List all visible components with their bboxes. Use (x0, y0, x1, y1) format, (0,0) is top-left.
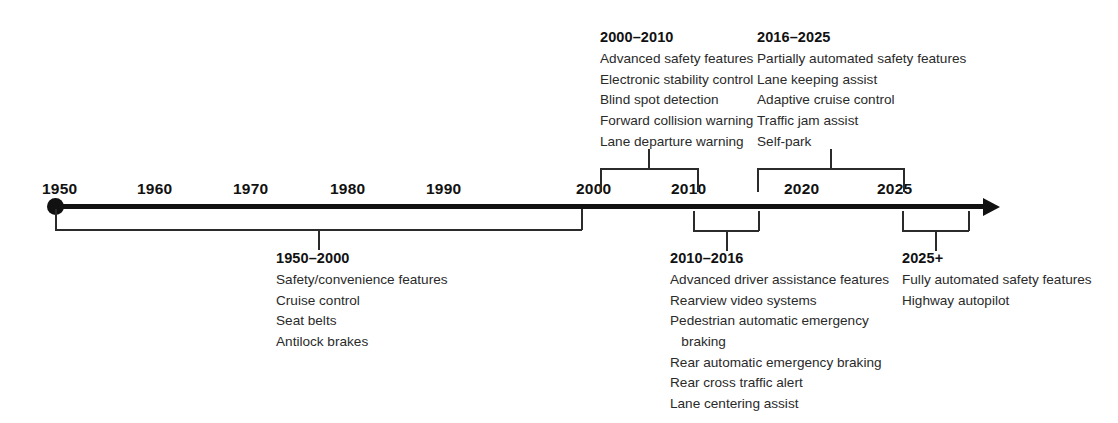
year-label-1990: 1990 (426, 180, 461, 198)
era-item: Partially automated safety features (757, 49, 966, 70)
era-item: Adaptive cruise control (757, 90, 966, 111)
era-title: 2000–2010 (600, 28, 753, 46)
era-item: Rear automatic emergency braking (670, 353, 889, 374)
era-item: Rearview video systems (670, 291, 889, 312)
era-block-2025-plus: 2025+ Fully automated safety features Hi… (902, 249, 1092, 311)
era-title: 1950–2000 (276, 249, 448, 267)
era-item: Forward collision warning (600, 111, 753, 132)
era-item: Lane centering assist (670, 394, 889, 415)
era-item: Advanced safety features (600, 49, 753, 70)
era-block-2016-2025: 2016–2025 Partially automated safety fea… (757, 28, 966, 152)
era-block-2010-2016: 2010–2016 Advanced driver assistance fea… (670, 249, 889, 415)
year-label-1980: 1980 (330, 180, 365, 198)
era-item: Lane keeping assist (757, 70, 966, 91)
era-title: 2025+ (902, 249, 1092, 267)
year-label-1960: 1960 (137, 180, 172, 198)
era-item: Rear cross traffic alert (670, 373, 889, 394)
year-label-1950: 1950 (42, 180, 77, 198)
year-label-2020: 2020 (784, 180, 819, 198)
era-item: Pedestrian automatic emergency (670, 311, 889, 332)
era-item: Lane departure warning (600, 132, 753, 153)
era-block-2000-2010: 2000–2010 Advanced safety features Elect… (600, 28, 753, 152)
timeline-figure: 1950 1960 1970 1980 1990 2000 2010 2020 … (0, 0, 1118, 423)
era-item: Electronic stability control (600, 70, 753, 91)
era-item: Traffic jam assist (757, 111, 966, 132)
year-label-2000: 2000 (576, 180, 611, 198)
era-item: Advanced driver assistance features (670, 270, 889, 291)
timeline-axis-line (55, 204, 987, 209)
era-item: Blind spot detection (600, 90, 753, 111)
era-block-1950-2000: 1950–2000 Safety/convenience features Cr… (276, 249, 448, 353)
era-item: Antilock brakes (276, 332, 448, 353)
era-item: Cruise control (276, 291, 448, 312)
era-title: 2016–2025 (757, 28, 966, 46)
era-title: 2010–2016 (670, 249, 889, 267)
era-item: Safety/convenience features (276, 270, 448, 291)
year-label-2025: 2025 (877, 180, 912, 198)
era-item: Seat belts (276, 311, 448, 332)
era-item: Self-park (757, 132, 966, 153)
timeline-arrowhead (983, 198, 1000, 216)
era-item: braking (670, 332, 889, 353)
era-item: Fully automated safety features (902, 270, 1092, 291)
year-label-2010: 2010 (671, 180, 706, 198)
era-item: Highway autopilot (902, 291, 1092, 312)
year-label-1970: 1970 (233, 180, 268, 198)
